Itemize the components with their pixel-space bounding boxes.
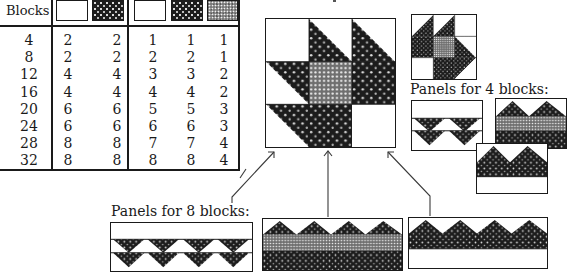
table-cell: 8 — [60, 135, 76, 152]
table-cell: 4 — [216, 152, 232, 169]
table-cell: 5 — [183, 101, 199, 118]
medium-fabric-swatch — [207, 0, 238, 21]
table-cell: 24 — [14, 118, 44, 135]
table-cell: 12 — [14, 66, 44, 83]
dark-fabric-swatch — [92, 0, 124, 21]
table-cell: 4 — [14, 32, 44, 49]
g1-dark-column: 2 2 4 4 6 6 8 8 — [109, 32, 125, 170]
table-cell: 4 — [109, 66, 125, 83]
table-cell: 6 — [109, 101, 125, 118]
table-cell: 16 — [14, 84, 44, 101]
panel-4-triangles — [411, 100, 483, 151]
table-cell: 3 — [216, 118, 232, 135]
white-fabric-swatch — [56, 0, 88, 21]
table-cell: 6 — [109, 118, 125, 135]
panels-8-caption: Panels for 8 blocks: — [111, 203, 250, 219]
table-cell: 4 — [183, 84, 199, 101]
table-cell: 6 — [60, 118, 76, 135]
table-cell: 2 — [109, 32, 125, 49]
table-cell: 8 — [183, 152, 199, 169]
table-cell: 4 — [216, 135, 232, 152]
g2-dark-column: 1 2 3 4 5 6 7 8 — [183, 32, 199, 170]
panel-8-triangles — [110, 222, 253, 272]
large-quilt-block — [265, 18, 396, 148]
table-cell: 20 — [14, 101, 44, 118]
white-fabric-swatch — [134, 0, 166, 21]
table-header-divider — [0, 25, 240, 27]
table-cell: 1 — [145, 32, 161, 49]
table-cell: 8 — [14, 49, 44, 66]
table-cell: 3 — [145, 66, 161, 83]
table-cell: 5 — [145, 101, 161, 118]
table-cell: 2 — [216, 84, 232, 101]
table-cell: 8 — [109, 135, 125, 152]
table-cell: 6 — [145, 118, 161, 135]
small-quilt-block — [411, 14, 477, 80]
table-cell: 7 — [145, 135, 161, 152]
table-cell: 2 — [109, 49, 125, 66]
table-cell: 2 — [183, 49, 199, 66]
table-cell: 2 — [60, 49, 76, 66]
table-cell: 3 — [183, 66, 199, 83]
table-cell: 1 — [183, 32, 199, 49]
panel-4-peaks-stripe — [495, 98, 567, 149]
table-column-divider — [127, 0, 129, 171]
arrow-right — [388, 152, 430, 216]
table-column-divider — [51, 0, 53, 171]
table-cell: 8 — [145, 152, 161, 169]
table-cell: 1 — [216, 32, 232, 49]
panels-4-caption: Panels for 4 blocks: — [410, 81, 549, 97]
g2-white-column: 1 2 3 4 5 6 7 8 — [145, 32, 161, 170]
table-cell: 4 — [109, 84, 125, 101]
table-cell: 28 — [14, 135, 44, 152]
g1-white-column: 2 2 4 4 6 6 8 8 — [60, 32, 76, 170]
table-cell: 2 — [145, 49, 161, 66]
table-cell: 3 — [216, 101, 232, 118]
table-cell: 32 — [14, 152, 44, 169]
panel-8-peaks-stripe — [262, 218, 403, 271]
dark-fabric-swatch — [171, 0, 203, 21]
blocks-header: Blocks — [6, 3, 49, 18]
table-cell: 6 — [183, 118, 199, 135]
blocks-column: 4 8 12 16 20 24 28 32 — [14, 32, 44, 170]
table-cell: 6 — [60, 101, 76, 118]
table-cell: 8 — [60, 152, 76, 169]
table-cell: 2 — [216, 66, 232, 83]
table-cell: 8 — [109, 152, 125, 169]
table-cell: 1 — [216, 49, 232, 66]
panel-4-peaks-white — [476, 143, 548, 194]
table-cell: 4 — [60, 66, 76, 83]
g2-medium-column: 1 1 2 2 3 3 4 4 — [216, 32, 232, 170]
table-cell: 2 — [60, 32, 76, 49]
table-cell: 4 — [145, 84, 161, 101]
table-cell: 7 — [183, 135, 199, 152]
panel-8-peaks-white — [408, 217, 548, 269]
table-cell: 4 — [60, 84, 76, 101]
